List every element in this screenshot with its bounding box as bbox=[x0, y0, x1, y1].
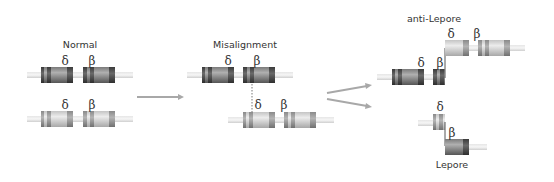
label-beta: β bbox=[281, 99, 288, 111]
beta-gene bbox=[83, 111, 115, 127]
label-delta: δ bbox=[61, 99, 68, 111]
normal-chromosome-bottom bbox=[27, 111, 133, 127]
label-beta: β bbox=[89, 55, 96, 67]
label-beta: β bbox=[254, 55, 261, 67]
label-beta: β bbox=[474, 28, 481, 40]
lepore-crossover-diagram bbox=[0, 0, 554, 182]
label-delta: δ bbox=[61, 55, 68, 67]
label-delta: δ bbox=[254, 99, 261, 111]
delta-gene bbox=[243, 112, 275, 128]
label-delta: δ bbox=[417, 57, 424, 69]
beta-gene bbox=[243, 67, 275, 83]
delta-gene bbox=[41, 67, 73, 83]
delta-gene bbox=[392, 69, 424, 85]
product-title-lepore: Lepore bbox=[436, 159, 468, 170]
delta-partial-gene bbox=[445, 40, 469, 56]
delta-partial-gene bbox=[433, 114, 445, 130]
label-delta: δ bbox=[436, 101, 443, 113]
product-title-anti-lepore: anti-Lepore bbox=[407, 13, 461, 24]
misaligned-chromosome-top bbox=[187, 67, 293, 83]
split-arrows-icon bbox=[327, 83, 372, 109]
label-beta: β bbox=[437, 57, 444, 69]
panel-title-normal: Normal bbox=[63, 39, 97, 50]
beta-gene bbox=[284, 112, 316, 128]
beta-partial-gene bbox=[433, 69, 445, 85]
misaligned-chromosome-bottom bbox=[228, 112, 334, 128]
beta-gene bbox=[83, 67, 115, 83]
delta-gene bbox=[202, 67, 234, 83]
label-delta: δ bbox=[447, 28, 454, 40]
beta-partial-gene bbox=[445, 139, 469, 155]
normal-chromosome-top bbox=[27, 67, 133, 83]
anti-lepore-chromosome bbox=[377, 40, 525, 85]
label-beta: β bbox=[449, 127, 456, 139]
label-delta: δ bbox=[224, 55, 231, 67]
label-beta: β bbox=[89, 99, 96, 111]
panel-title-misalignment: Misalignment bbox=[213, 39, 277, 50]
beta-gene bbox=[478, 40, 510, 56]
delta-gene bbox=[41, 111, 73, 127]
arrow-right-icon bbox=[137, 94, 184, 100]
